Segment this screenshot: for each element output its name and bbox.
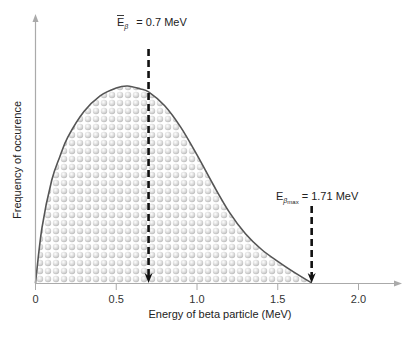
mean-energy-label: Eβ= 0.7 MeV <box>117 16 187 32</box>
x-tick-label: 2.0 <box>351 293 366 305</box>
x-tick-label: 0.5 <box>109 293 124 305</box>
svg-text:Eβmax= 1.71 MeV: Eβmax= 1.71 MeV <box>276 190 359 205</box>
x-axis-arrow-icon <box>394 281 402 287</box>
max-label-value: = 1.71 MeV <box>302 190 359 202</box>
max-label-sub2: max <box>287 199 298 205</box>
mean-label-value: = 0.7 MeV <box>136 16 187 28</box>
x-tick-label: 1.5 <box>270 293 285 305</box>
x-tick-label: 1.0 <box>189 293 204 305</box>
y-axis-arrow-icon <box>33 14 39 22</box>
x-tick-label: 0 <box>32 293 38 305</box>
mean-label-sub: β <box>123 23 128 31</box>
area-fill <box>0 0 413 338</box>
max-energy-label: Eβmax= 1.71 MeV <box>276 190 359 205</box>
x-ticks: 00.51.01.52.0 <box>32 283 366 305</box>
area-fill-group <box>0 0 413 338</box>
y-axis-title: Frequency of occurence <box>11 101 23 219</box>
max-label-main: E <box>276 190 283 202</box>
mean-label-main: E <box>117 16 124 28</box>
x-axis-title: Energy of beta particle (MeV) <box>148 308 291 320</box>
beta-spectrum-chart: 00.51.01.52.0 Eβ= 0.7 MeV Eβmax= 1.71 Me… <box>0 0 413 338</box>
svg-text:Eβ= 0.7 MeV: Eβ= 0.7 MeV <box>117 16 187 31</box>
